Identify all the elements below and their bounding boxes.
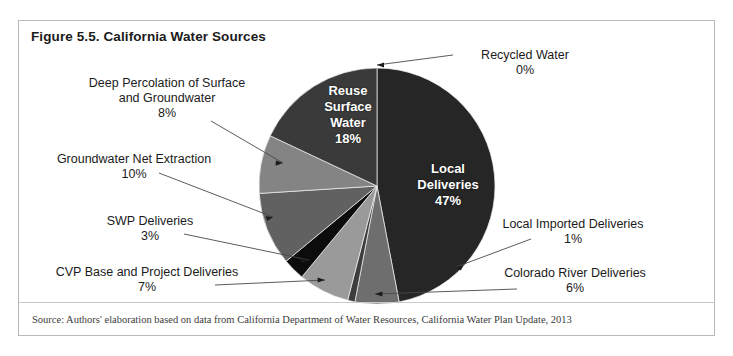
- slice-label-local-deliveries-pct: 47%: [435, 193, 461, 208]
- slice-label-groundwater-line1: Groundwater Net Extraction: [57, 152, 211, 166]
- slice-label-local-imported-deliveries-pct: 1%: [485, 232, 661, 247]
- slice-label-local-deliveries: Local Deliveries 47%: [394, 161, 502, 209]
- slice-label-reuse-surface-water-line2: Surface: [324, 99, 372, 114]
- figure-frame: Figure 5.5. California Water Sources: [18, 20, 715, 336]
- slice-label-local-deliveries-line1: Local: [431, 161, 465, 176]
- slice-label-local-imported-deliveries-line1: Local Imported Deliveries: [502, 217, 643, 231]
- slice-label-recycled-water-line1: Recycled Water: [481, 48, 569, 62]
- slice-label-local-imported-deliveries: Local Imported Deliveries 1%: [485, 217, 661, 247]
- slice-label-reuse-surface-water-pct: 18%: [335, 131, 361, 146]
- slice-label-reuse-surface-water-line1: Reuse: [328, 83, 367, 98]
- slice-label-cvp-pct: 7%: [47, 280, 247, 295]
- slice-label-groundwater-net-extraction: Groundwater Net Extraction 10%: [35, 152, 233, 182]
- slice-label-swp-line1: SWP Deliveries: [107, 214, 194, 228]
- slice-label-deep-percolation-line2: and Groundwater: [63, 91, 271, 106]
- slice-label-deep-percolation-pct: 8%: [63, 106, 271, 121]
- pie-chart: Local Deliveries 47% Reuse Surface Water…: [19, 21, 714, 335]
- slice-label-colorado-river-deliveries: Colorado River Deliveries 6%: [485, 266, 665, 296]
- source-note: Source: Authors' elaboration based on da…: [32, 314, 572, 325]
- slice-label-local-deliveries-line2: Deliveries: [417, 177, 478, 192]
- slice-label-recycled-water: Recycled Water 0%: [455, 48, 595, 78]
- source-divider: [19, 302, 714, 303]
- slice-label-reuse-surface-water-line3: Water: [330, 115, 366, 130]
- slice-label-swp-deliveries: SWP Deliveries 3%: [79, 214, 221, 244]
- leader-arrow-recycled-water: [377, 62, 384, 67]
- slice-label-cvp-base-and-project-deliveries: CVP Base and Project Deliveries 7%: [47, 265, 247, 295]
- slice-label-groundwater-pct: 10%: [35, 167, 233, 182]
- slice-label-deep-percolation-line1: Deep Percolation of Surface: [89, 76, 245, 90]
- slice-label-deep-percolation: Deep Percolation of Surface and Groundwa…: [63, 76, 271, 121]
- slice-label-colorado-river-deliveries-line1: Colorado River Deliveries: [504, 266, 646, 280]
- slice-label-swp-pct: 3%: [79, 229, 221, 244]
- slice-label-cvp-line1: CVP Base and Project Deliveries: [56, 265, 239, 279]
- leader-line-recycled-water: [377, 55, 453, 65]
- slice-label-reuse-surface-water: Reuse Surface Water 18%: [309, 83, 387, 147]
- slice-label-recycled-water-pct: 0%: [455, 63, 595, 78]
- slice-label-colorado-river-deliveries-pct: 6%: [485, 281, 665, 296]
